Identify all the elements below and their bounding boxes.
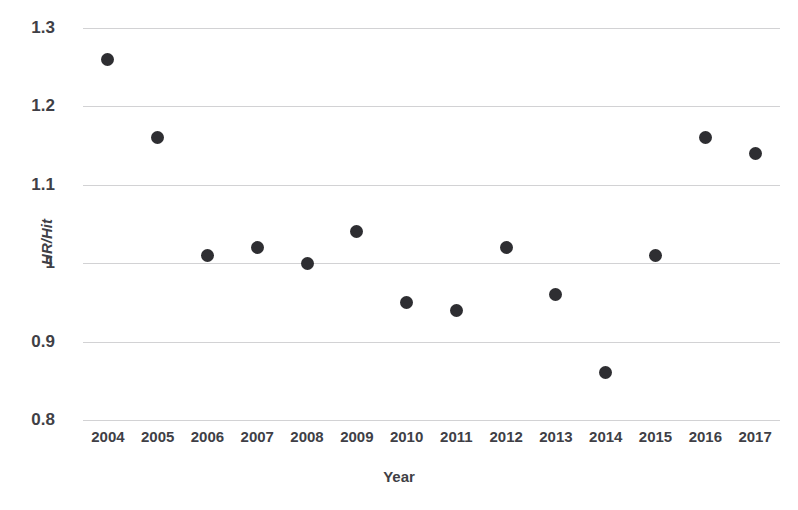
gridline [83,106,780,107]
data-point [201,249,214,262]
data-point [699,131,712,144]
data-point [101,53,114,66]
gridline [83,342,780,343]
data-point [151,131,164,144]
y-axis-tick-label: 0.8 [0,410,55,430]
y-axis-tick-label: 1.2 [0,96,55,116]
data-point [301,257,314,270]
y-axis-label: HR/Hit [38,182,55,302]
data-point [549,288,562,301]
data-point [599,366,612,379]
data-point [251,241,264,254]
x-axis-label: Year [0,468,798,485]
data-point [749,147,762,160]
chart-figure: 0.80.911.11.21.3 HR/Hit Year 20042005200… [0,0,798,510]
gridline [83,420,780,421]
data-point [500,241,513,254]
gridline [83,185,780,186]
gridline [83,28,780,29]
data-point [649,249,662,262]
data-point [450,304,463,317]
x-axis-tick-label: 2017 [725,428,785,445]
y-axis-tick-label: 0.9 [0,332,55,352]
data-point [350,225,363,238]
chart-title-clipped [0,0,798,7]
data-point [400,296,413,309]
y-axis-tick-label: 1.3 [0,18,55,38]
gridline [83,263,780,264]
plot-area: 0.80.911.11.21.3 [83,28,780,420]
